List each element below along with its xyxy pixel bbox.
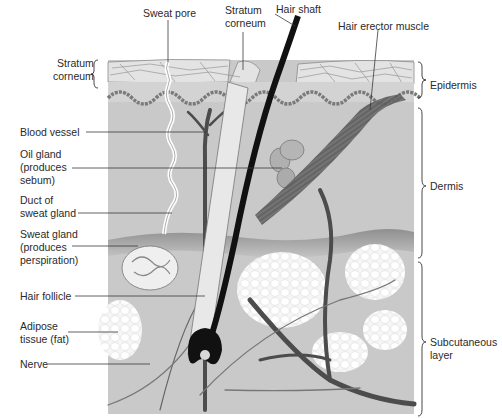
label-hair-follicle: Hair follicle (20, 290, 71, 303)
label-sweat-gland: Sweat gland (produces perspiration) (20, 228, 78, 267)
label-adipose-tissue: Adipose tissue (fat) (20, 320, 69, 346)
label-stratum-corneum-left: Stratum corneum (53, 57, 94, 83)
label-duct-of-sweat-gland: Duct of sweat gland (20, 194, 76, 220)
label-blood-vessel: Blood vessel (20, 126, 80, 139)
label-hair-shaft: Hair shaft (276, 3, 321, 16)
label-nerve: Nerve (20, 358, 48, 371)
label-subcutaneous-layer: Subcutaneous layer (430, 336, 497, 362)
label-sweat-pore: Sweat pore (143, 7, 196, 20)
label-stratum-corneum-top: Stratum corneum (225, 4, 266, 30)
sweat-gland (122, 246, 178, 290)
label-oil-gland: Oil gland (produces sebum) (20, 148, 67, 187)
label-hair-erector-muscle: Hair erector muscle (338, 20, 429, 33)
label-dermis: Dermis (430, 180, 463, 193)
label-epidermis: Epidermis (430, 79, 477, 92)
